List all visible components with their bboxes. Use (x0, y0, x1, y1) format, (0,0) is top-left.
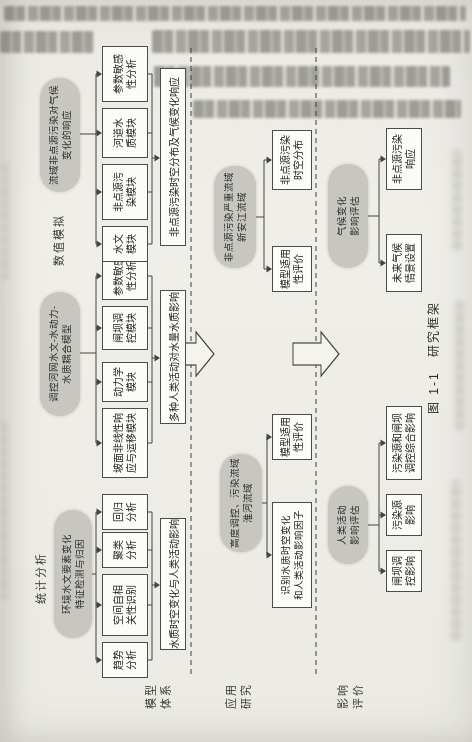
figure-caption: 图 1-1 研究框架 (424, 301, 441, 414)
module-parameter-sensitivity-2: 参数敏感 性分析 (102, 46, 148, 102)
result-sluice-impact: 闸坝调 控影响 (386, 550, 422, 592)
band-label-application-research: 应用 研究 (224, 676, 254, 716)
module-nps-pollution: 非点源污 染模块 (102, 164, 148, 220)
result-future-climate-scenarios: 未来气候 情景设置 (386, 234, 422, 292)
module-spatial-autocorrelation: 空间自相 关性识别 (102, 574, 148, 636)
output-nps-distribution-climate: 非点源污染时空分布及气候变化响应 (160, 68, 186, 246)
header-numerical-simulation: 数值模拟 (50, 214, 66, 266)
result-nps-spatiotemporal: 非点源污染 时空分布 (272, 130, 312, 190)
band-label-model-system: 模型 体系 (144, 676, 174, 716)
node-env-hydro-detection: 环境水文要素变化 特征检测与归因 (54, 510, 92, 638)
module-sluice-regulation: 闸坝调 控模块 (102, 306, 148, 350)
module-slope-nonlinear-transport: 坡面非线性响 应与运移模块 (102, 408, 148, 478)
output-human-activity-effects: 多种人类活动对水量水质影响 (160, 290, 186, 424)
module-river-water-quality: 河道水 质模块 (102, 108, 148, 158)
result-model-applicability-huai: 模型适用 性评价 (272, 414, 312, 460)
node-climate-change-assessment: 气候变化 影响评估 (328, 164, 368, 268)
node-nps-climate-response: 流域非点源污染对气候 变化的响应 (40, 78, 80, 192)
node-human-activity-assessment: 人类活动 影响评估 (328, 486, 368, 564)
result-combined-impact: 污染源和闸坝 调控综合影响 (386, 406, 422, 480)
module-hydrology: 水文 模块 (102, 226, 148, 262)
result-identify-wq-factors: 识别水质时空变化 和人类活动影响因子 (272, 502, 312, 608)
node-huai-basin: 高度调控、污染流域 淮河流域 (220, 454, 262, 552)
result-pollution-source-impact: 污染源 影响 (386, 494, 422, 536)
module-regression-analysis: 回归 分析 (102, 494, 148, 530)
research-framework-figure: 模型 体系 应用 研究 影响 评价 统计分析 数值模拟 环境水文要素变化 特征检… (0, 0, 472, 742)
result-nps-response: 非点源污染 响应 (386, 128, 422, 190)
flow-arrow-down-icon (168, 332, 339, 376)
module-trend-analysis: 趋势 分析 (102, 642, 148, 678)
module-cluster-analysis: 聚类 分析 (102, 532, 148, 568)
scanned-page: 模型 体系 应用 研究 影响 评价 统计分析 数值模拟 环境水文要素变化 特征检… (0, 0, 472, 742)
node-coupled-model: 调控河网水文-水动力- 水质耦合模型 (40, 292, 80, 416)
module-dynamics: 动力学 模块 (102, 362, 148, 402)
header-statistical-analysis: 统计分析 (32, 552, 48, 604)
output-water-quality-variation: 水质时空变化与人类活动影响 (160, 518, 186, 650)
node-xinanjiang-basin: 非点源污染严重流域 新安江流域 (214, 166, 256, 268)
band-label-impact-evaluation: 影响 评价 (336, 676, 366, 716)
result-model-applicability-xinanjiang: 模型适用 性评价 (272, 246, 312, 292)
